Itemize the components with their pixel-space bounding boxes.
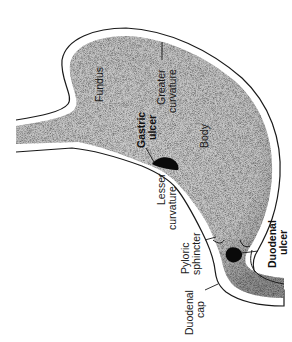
- label-pyloric-sphincter-line2: sphincter: [190, 232, 202, 275]
- label-greater-curvature-line2: curvature: [166, 69, 178, 113]
- label-duodenal-ulcer-line2: ulcer: [277, 230, 289, 255]
- duodenal-cap-leader: [205, 284, 218, 290]
- stomach-body-fill: [16, 36, 284, 298]
- label-gastric-ulcer-line2: ulcer: [146, 115, 158, 140]
- label-duodenal-cap-line2: cap: [194, 301, 206, 318]
- label-body: Body: [198, 123, 210, 148]
- label-fundus: Fundus: [93, 67, 105, 102]
- label-lesser-curvature-line2: curvature: [166, 186, 178, 230]
- stomach-diagram: Fundus Greater curvature Gastric ulcer B…: [0, 0, 292, 342]
